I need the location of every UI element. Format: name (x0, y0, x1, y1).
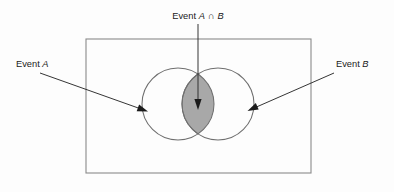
arrow-to-event-a (40, 73, 148, 112)
event-b-label-variable: B (362, 59, 368, 69)
intersection-label-operator: ∩ (208, 11, 215, 21)
event-b-label-prefix: Event (336, 59, 362, 69)
event-a-label-variable: A (41, 59, 48, 69)
arrow-to-event-b (248, 73, 335, 111)
intersection-label-prefix: Event (172, 11, 198, 21)
event-a-label-prefix: Event (16, 59, 42, 69)
venn-diagram-figure: Event A Event A∩B Event B (0, 0, 394, 192)
event-b-label: Event B (336, 59, 369, 69)
intersection-label-variable-b: B (218, 11, 224, 21)
venn-diagram-canvas: Event A Event A∩B Event B (0, 0, 394, 192)
intersection-label-variable-a: A (198, 11, 205, 21)
event-a-label: Event A (16, 59, 49, 69)
intersection-label: Event A∩B (172, 11, 223, 21)
